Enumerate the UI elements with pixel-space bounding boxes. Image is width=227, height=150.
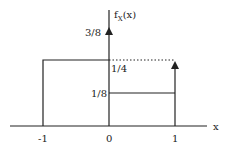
x-tick-1: 1 xyxy=(172,133,178,144)
x-axis-label: x xyxy=(213,121,219,132)
impulse-arrow-at-one-icon xyxy=(171,61,179,69)
y-axis-label: fX(x) xyxy=(114,9,136,23)
x-tick-neg1: -1 xyxy=(38,133,48,144)
x-tick-0: 0 xyxy=(106,133,112,144)
label-three-eighths: 3/8 xyxy=(85,27,101,38)
label-one-eighth: 1/8 xyxy=(91,88,107,99)
label-one-quarter: 1/4 xyxy=(111,63,127,74)
pdf-diagram: fX(x) 3/8 1/4 1/8 -1 0 1 x xyxy=(0,0,227,150)
impulse-arrow-at-zero-icon xyxy=(105,27,113,35)
